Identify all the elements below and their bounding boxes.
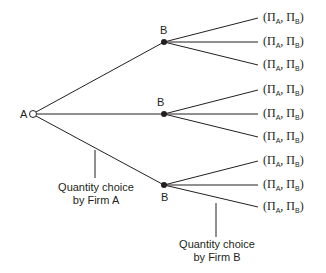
caption-firm-a: Quantity choice by Firm A bbox=[41, 181, 151, 207]
branch-b2-3 bbox=[164, 114, 258, 137]
node-label-a: A bbox=[20, 108, 27, 121]
node-label-b-middle: B bbox=[157, 96, 164, 109]
payoff-label: (ΠA, ΠB) bbox=[263, 34, 304, 53]
root-node-a bbox=[30, 111, 37, 118]
payoff-label: (ΠA, ΠB) bbox=[263, 177, 304, 196]
caption-firm-a-line2: by Firm A bbox=[41, 194, 151, 207]
branch-b3-3 bbox=[164, 185, 258, 207]
branch-a-bottom bbox=[36, 116, 164, 185]
payoff-label: (ΠA, ΠB) bbox=[263, 129, 304, 148]
caption-firm-a-line1: Quantity choice bbox=[41, 181, 151, 194]
node-b-middle bbox=[161, 111, 167, 117]
branch-b1-1 bbox=[164, 18, 258, 42]
payoff-label: (ΠA, ΠB) bbox=[263, 10, 304, 29]
branch-b1-3 bbox=[164, 42, 258, 65]
caption-firm-b-line1: Quantity choice bbox=[162, 238, 272, 251]
branch-b3-1 bbox=[164, 161, 258, 185]
branch-b2-1 bbox=[164, 90, 258, 114]
node-label-b-top: B bbox=[160, 24, 167, 37]
node-b-top bbox=[161, 39, 167, 45]
payoff-label: (ΠA, ΠB) bbox=[263, 199, 304, 218]
payoff-label: (ΠA, ΠB) bbox=[263, 57, 304, 76]
node-label-b-bottom: B bbox=[161, 191, 168, 204]
payoff-label: (ΠA, ΠB) bbox=[263, 82, 304, 101]
payoff-label: (ΠA, ΠB) bbox=[263, 153, 304, 172]
caption-firm-b-line2: by Firm B bbox=[162, 251, 272, 264]
payoff-label: (ΠA, ΠB) bbox=[263, 106, 304, 125]
branch-a-top bbox=[36, 42, 164, 112]
node-b-bottom bbox=[161, 182, 167, 188]
caption-firm-b: Quantity choice by Firm B bbox=[162, 238, 272, 264]
